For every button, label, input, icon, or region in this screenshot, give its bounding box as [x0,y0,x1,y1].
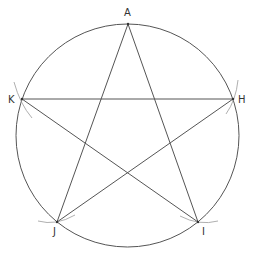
vertex-label-j: J [52,226,56,237]
vertex-point-h [232,98,234,100]
vertex-point-j [56,221,58,223]
vertex-label-h: H [238,94,246,105]
vertex-label-a: A [124,7,131,18]
pentagram-diagram: A H I J K [0,0,254,259]
vertex-point-a [127,23,129,25]
vertex-label-i: I [202,226,205,237]
vertex-point-k [21,98,23,100]
background [0,0,254,259]
vertex-label-k: K [8,94,15,105]
vertex-point-i [197,221,199,223]
